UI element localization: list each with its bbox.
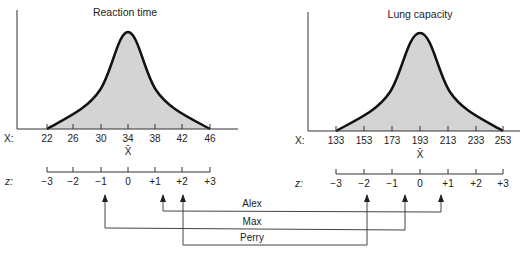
x-tick-label: 42 — [176, 133, 188, 144]
z-score-comparison-diagram: Reaction time X: 22 26 30 34 38 42 46 X̄… — [0, 0, 528, 263]
x-tick-label: 46 — [204, 133, 216, 144]
arrow-up-icon — [438, 194, 444, 202]
arrow-up-icon — [160, 194, 166, 202]
mean-label: X̄ — [125, 145, 132, 157]
z-tick-label: −2 — [358, 178, 370, 189]
x-tick-label: 26 — [67, 133, 79, 144]
z-tick-label: +2 — [470, 178, 482, 189]
x-tick-label: 38 — [149, 133, 161, 144]
connector-alex — [160, 194, 444, 212]
z-tick-label: +1 — [149, 176, 161, 187]
connector-perry — [180, 194, 370, 245]
z-tick-label: −1 — [95, 176, 107, 187]
x-axis-label: X: — [295, 135, 304, 146]
x-tick-label: 193 — [412, 135, 429, 146]
x-tick-label: 253 — [495, 135, 512, 146]
z-tick-label: −1 — [386, 178, 398, 189]
arrow-up-icon — [180, 194, 186, 202]
person-label-perry: Perry — [240, 232, 264, 243]
z-tick-label: 0 — [125, 176, 131, 187]
x-tick-label: 173 — [384, 135, 401, 146]
reaction-time-chart: Reaction time X: 22 26 30 34 38 42 46 X̄… — [4, 6, 238, 187]
x-tick-label: 233 — [468, 135, 485, 146]
x-tick-label: 22 — [41, 133, 53, 144]
mean-label: X̄ — [417, 148, 424, 160]
z-tick-label: +2 — [176, 176, 188, 187]
x-tick-label: 34 — [122, 133, 134, 144]
z-axis-label: z: — [4, 176, 13, 187]
x-tick-label: 153 — [356, 135, 373, 146]
z-ticks — [47, 167, 210, 172]
z-tick-label: +3 — [204, 176, 216, 187]
arrow-up-icon — [364, 194, 370, 202]
person-label-alex: Alex — [242, 198, 261, 209]
arrow-up-icon — [102, 194, 108, 202]
lung-capacity-chart: Lung capacity X: 133 153 173 193 213 233… — [294, 8, 520, 189]
z-tick-label: −3 — [330, 178, 342, 189]
x-tick-label: 30 — [95, 133, 107, 144]
x-tick-label: 133 — [328, 135, 345, 146]
z-axis-label: z: — [294, 178, 303, 189]
reaction-time-title: Reaction time — [93, 6, 157, 18]
z-tick-label: +3 — [497, 178, 509, 189]
arrow-up-icon — [402, 194, 408, 202]
x-axis-label: X: — [4, 133, 13, 144]
z-tick-label: 0 — [417, 178, 423, 189]
z-tick-label: +1 — [442, 178, 454, 189]
person-label-max: Max — [243, 216, 262, 227]
z-tick-label: −2 — [67, 176, 79, 187]
x-tick-label: 213 — [440, 135, 457, 146]
z-tick-label: −3 — [41, 176, 53, 187]
lung-capacity-title: Lung capacity — [388, 8, 454, 20]
z-ticks — [336, 169, 503, 174]
